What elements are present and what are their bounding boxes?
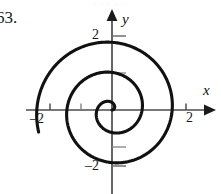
x-axis-label: x: [203, 82, 210, 99]
y-axis-arrowhead: [107, 9, 118, 21]
spiral-figure: · · · ·· · 63. y x 2 –2 2 –2: [0, 0, 221, 194]
spiral-curve: [37, 42, 173, 163]
x-tick-label-minus-2: –2: [30, 111, 44, 127]
x-tick-label-2: 2: [186, 110, 193, 126]
y-tick-label-2: 2: [92, 27, 99, 43]
y-tick-label-minus-2: –2: [85, 158, 99, 174]
y-axis-label: y: [122, 11, 129, 28]
coordinate-plot: [0, 0, 221, 194]
x-axis-arrowhead: [204, 105, 216, 116]
